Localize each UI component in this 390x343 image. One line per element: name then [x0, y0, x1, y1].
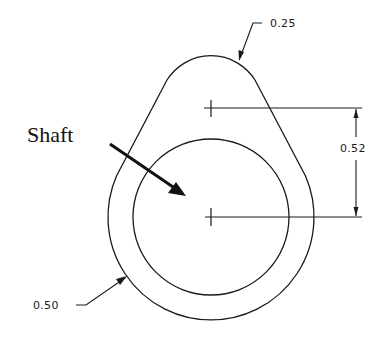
cam-profile-drawing [0, 0, 390, 343]
leader-line-base-radius [76, 278, 125, 305]
shaft-pointer-line [110, 144, 176, 189]
top-radius-label: 0.25 [270, 18, 296, 29]
cam-drawing-canvas: Shaft 0.25 0.52 0.50 [0, 0, 390, 343]
dimension-arrow-down-icon [354, 207, 359, 216]
base-radius-label: 0.50 [33, 300, 59, 311]
shaft-label: Shaft [27, 124, 73, 146]
leader-arrow-top-icon [239, 50, 245, 61]
dimension-arrow-up-icon [354, 109, 359, 118]
center-distance-label: 0.52 [340, 143, 366, 154]
